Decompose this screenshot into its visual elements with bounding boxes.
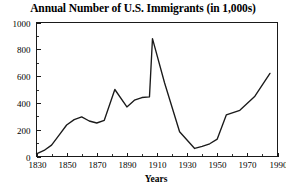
- x-tick-label: 1930: [179, 160, 198, 170]
- y-tick-label: 800: [17, 45, 31, 55]
- y-axis-tick-labels: 02004006008001000: [13, 19, 32, 163]
- x-tick-label: 1990: [270, 160, 287, 170]
- x-tick-label: 1890: [119, 160, 138, 170]
- x-tick-label: 1850: [59, 160, 78, 170]
- x-tick-label: 1950: [209, 160, 228, 170]
- line-chart-plot: 02004006008001000 1830185018701890191019…: [0, 0, 286, 186]
- x-axis-tick-labels: 183018501870189019101930195019701990: [29, 160, 287, 170]
- x-axis-title: Years: [145, 174, 168, 184]
- data-series-line: [37, 39, 270, 154]
- x-tick-label: 1870: [89, 160, 108, 170]
- y-axis-ticks: [37, 24, 41, 158]
- plot-frame: [37, 23, 278, 157]
- x-tick-label: 1910: [149, 160, 168, 170]
- x-axis-ticks: [38, 153, 279, 157]
- y-tick-label: 400: [17, 99, 31, 109]
- x-tick-label: 1830: [29, 160, 48, 170]
- y-tick-label: 200: [17, 126, 31, 136]
- x-tick-label: 1970: [239, 160, 258, 170]
- y-tick-label: 600: [17, 72, 31, 82]
- chart-figure: Annual Number of U.S. Immigrants (in 1,0…: [0, 0, 286, 186]
- y-tick-label: 1000: [13, 19, 32, 29]
